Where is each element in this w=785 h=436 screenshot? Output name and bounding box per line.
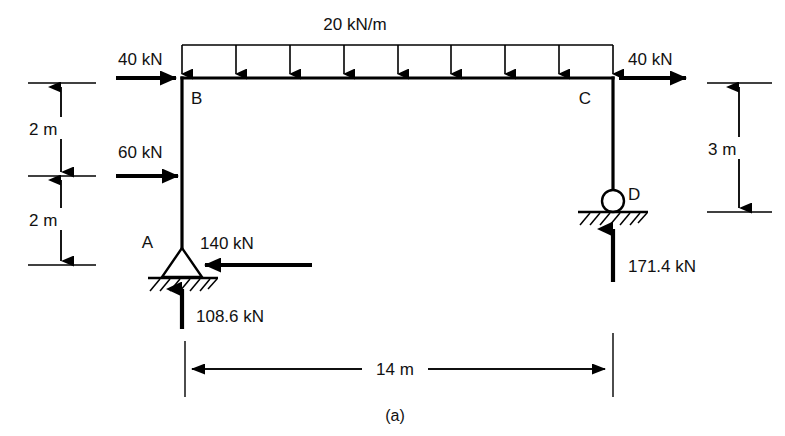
point-load-40kn-b-label: 40 kN <box>118 50 162 69</box>
node-label-b: B <box>191 89 202 108</box>
right-dimension-group: 3 m <box>703 83 772 212</box>
support-d-hatching <box>580 213 647 225</box>
reaction-108-group: 108.6 kN <box>182 289 264 329</box>
node-labels-group: B C A D <box>142 89 641 252</box>
roller-support-circle <box>602 190 624 212</box>
frame-members-group <box>182 78 613 248</box>
dimension-label-14m: 14 m <box>376 360 414 379</box>
dimension-label-2m-upper: 2 m <box>29 120 57 139</box>
frame-free-body-diagram: 2 m 2 m 3 m 20 kN/m <box>0 0 785 436</box>
reaction-171-label: 171.4 kN <box>628 257 696 276</box>
figure-container: 2 m 2 m 3 m 20 kN/m <box>0 0 785 436</box>
node-label-a: A <box>142 233 154 252</box>
point-load-40kn-b-group: 40 kN <box>116 50 176 78</box>
dimension-label-3m: 3 m <box>708 140 736 159</box>
distributed-load-group: 20 kN/m <box>182 15 613 74</box>
support-a-pin-group <box>148 248 218 291</box>
point-load-140kn-label: 140 kN <box>200 234 254 253</box>
point-load-40kn-c-group: 40 kN <box>619 50 686 78</box>
reaction-171-group: 171.4 kN <box>613 229 696 282</box>
node-label-c: C <box>579 89 591 108</box>
left-dimension-group: 2 m 2 m <box>24 83 96 265</box>
distributed-load-label: 20 kN/m <box>323 15 386 34</box>
reaction-108-label: 108.6 kN <box>196 307 264 326</box>
node-label-d: D <box>628 185 640 204</box>
point-load-60kn-label: 60 kN <box>118 143 162 162</box>
pin-support-triangle <box>162 248 202 277</box>
point-load-140kn-group: 140 kN <box>200 234 312 265</box>
figure-caption: (a) <box>385 407 405 424</box>
dimension-label-2m-lower: 2 m <box>29 211 57 230</box>
bottom-dimension-group: 14 m <box>185 333 613 397</box>
point-load-40kn-c-label: 40 kN <box>628 50 672 69</box>
point-load-60kn-group: 60 kN <box>116 143 178 176</box>
